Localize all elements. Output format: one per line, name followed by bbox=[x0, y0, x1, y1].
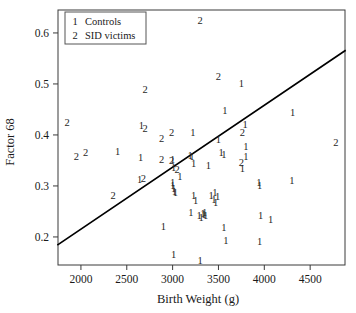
data-point-marker: 1 bbox=[191, 158, 196, 169]
data-point-marker: 1 bbox=[289, 175, 294, 186]
x-tick-label: 2500 bbox=[115, 273, 138, 285]
x-tick-labels: 200025003000350040004500 bbox=[69, 273, 321, 285]
data-point-marker: 1 bbox=[216, 134, 221, 145]
legend-label: SID victims bbox=[85, 30, 135, 41]
legend: 1Controls2SID victims bbox=[65, 12, 146, 44]
x-tick-label: 2000 bbox=[69, 273, 92, 285]
data-point-marker: 2 bbox=[216, 71, 221, 82]
data-point-marker: 1 bbox=[257, 236, 262, 247]
axes-frame bbox=[58, 10, 345, 265]
data-point-marker: 1 bbox=[221, 149, 226, 160]
y-tick-label: 0.4 bbox=[35, 129, 50, 141]
data-point-marker: 1 bbox=[138, 152, 143, 163]
data-point-marker: 1 bbox=[161, 221, 166, 232]
data-point-marker: 1 bbox=[206, 160, 211, 171]
x-tick-label: 3000 bbox=[161, 273, 184, 285]
data-point-marker: 2 bbox=[159, 154, 164, 165]
data-point-marker: 1 bbox=[268, 214, 273, 225]
data-point-marker: 1 bbox=[223, 235, 228, 246]
data-point-marker: 1 bbox=[221, 222, 226, 233]
x-tick-label: 3500 bbox=[207, 273, 230, 285]
data-point-marker: 1 bbox=[171, 249, 176, 260]
data-point-marker: 2 bbox=[142, 123, 147, 134]
data-point-marker: 2 bbox=[240, 127, 245, 138]
data-point-marker: 2 bbox=[333, 137, 338, 148]
y-tick-label: 0.6 bbox=[35, 27, 50, 39]
data-point-marker: 2 bbox=[110, 190, 115, 201]
data-point-marker: 1 bbox=[203, 210, 208, 221]
y-tick-labels: 0.20.30.40.50.6 bbox=[35, 27, 50, 243]
data-point-marker: 1 bbox=[173, 187, 178, 198]
x-tick-label: 4500 bbox=[299, 273, 322, 285]
data-point-marker: 2 bbox=[74, 151, 79, 162]
y-tick-label: 0.3 bbox=[35, 180, 50, 192]
data-point-marker: 1 bbox=[258, 210, 263, 221]
x-axis-title: Birth Weight (g) bbox=[157, 292, 239, 306]
data-point-marker: 1 bbox=[215, 191, 220, 202]
data-point-marker: 1 bbox=[190, 127, 195, 138]
data-point-marker: 1 bbox=[243, 151, 248, 162]
data-point-marker: 2 bbox=[175, 164, 180, 175]
legend-label: Controls bbox=[85, 16, 121, 27]
data-point-marker: 2 bbox=[239, 157, 244, 168]
scatter-plot-figure: 200025003000350040004500 0.20.30.40.50.6… bbox=[0, 0, 356, 313]
data-point-marker: 2 bbox=[159, 133, 164, 144]
data-point-marker: 1 bbox=[197, 255, 202, 266]
data-point-marker: 1 bbox=[257, 180, 262, 191]
y-tick-label: 0.2 bbox=[35, 231, 50, 243]
legend-key: 1 bbox=[72, 16, 77, 27]
data-point-marker: 2 bbox=[141, 173, 146, 184]
y-tick-label: 0.5 bbox=[35, 78, 50, 90]
plot-canvas: 200025003000350040004500 0.20.30.40.50.6… bbox=[0, 0, 356, 313]
data-point-marker: 1 bbox=[188, 207, 193, 218]
data-point-marker: 2 bbox=[169, 155, 174, 166]
data-point-marker: 1 bbox=[239, 78, 244, 89]
data-point-marker: 2 bbox=[65, 117, 70, 128]
legend-key: 2 bbox=[72, 30, 77, 41]
data-point-marker: 1 bbox=[222, 105, 227, 116]
axis-ticks bbox=[53, 33, 310, 270]
data-point-marker: 2 bbox=[83, 147, 88, 158]
y-axis-title: Factor 68 bbox=[3, 118, 17, 166]
data-point-marker: 2 bbox=[197, 15, 202, 26]
data-point-marker: 2 bbox=[169, 127, 174, 138]
data-point-marker: 2 bbox=[142, 84, 147, 95]
data-point-marker: 1 bbox=[290, 107, 295, 118]
data-point-marker: 1 bbox=[193, 195, 198, 206]
x-tick-label: 4000 bbox=[253, 273, 276, 285]
data-point-marker: 1 bbox=[115, 146, 120, 157]
